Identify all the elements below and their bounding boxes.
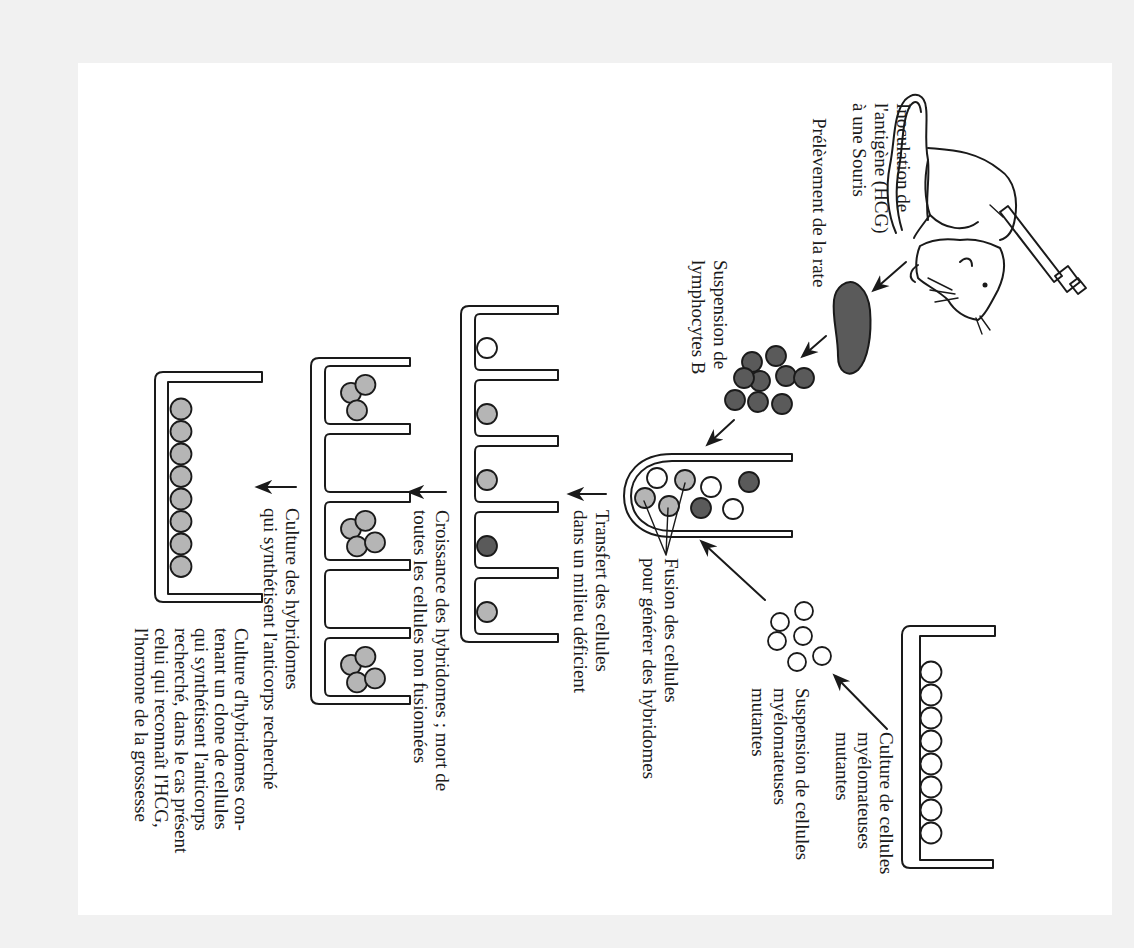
tube-cell-dark (691, 498, 711, 518)
myeloma-cell (813, 647, 831, 665)
svg-text:Transfert des cellules: Transfert des cellules (592, 510, 613, 672)
myeloma-culture-cell (921, 731, 942, 752)
svg-text:lymphocytes B: lymphocytes B (688, 260, 709, 375)
diagram-stage: Inoculation de l'antigène (HCG) à une So… (0, 0, 1134, 948)
plate2-hybridoma-cell (355, 647, 375, 667)
hybridoma-diagram: Inoculation de l'antigène (HCG) à une So… (0, 0, 1134, 948)
plate2-hybridoma-cell (355, 375, 375, 395)
tube-cell-white (723, 499, 743, 519)
lymphocyte-cell (748, 392, 768, 412)
svg-text:mutantes: mutantes (748, 688, 769, 757)
label-fusion: Fusion des cellules pour générer des hyb… (639, 558, 682, 779)
tube-cell-white (701, 477, 721, 497)
label-suspension-lymphocytes: Suspension de lymphocytes B (688, 260, 731, 375)
myeloma-culture-cells (921, 662, 942, 844)
svg-text:Culture d'hybridomes con-: Culture d'hybridomes con- (231, 628, 252, 831)
myeloma-cell (768, 632, 786, 650)
svg-text:Culture de cellules: Culture de cellules (876, 732, 897, 874)
final-hybridoma-cell (171, 534, 192, 555)
arrow-to-lymphocytes (803, 336, 826, 356)
svg-text:toutes les cellules non fusion: toutes les cellules non fusionnées (410, 510, 431, 763)
svg-text:myélomateuses: myélomateuses (770, 688, 791, 805)
plate1-cell-hybrid (477, 404, 497, 424)
svg-text:à une Souris: à une Souris (849, 103, 870, 197)
myeloma-culture-cell (921, 662, 942, 683)
label-croissance: Croissance des hybridomes ; mort de tout… (410, 510, 453, 791)
myeloma-culture-cell (921, 777, 942, 798)
label-culture-myelome: Culture de cellules myélomateuses mutant… (832, 732, 897, 874)
plate2-hybridoma-cell (355, 511, 375, 531)
svg-text:tenant un clone de cellules: tenant un clone de cellules (211, 628, 232, 830)
lymphocyte-cell (772, 394, 792, 414)
plate2-hybridoma-cell (365, 668, 385, 688)
svg-text:qui synthétisent l'anticorps r: qui synthétisent l'anticorps recherché (260, 508, 281, 789)
plate1-cell-hybrid (477, 602, 497, 622)
arrow-to-spleen (874, 262, 906, 290)
svg-text:celui qui reconnaît l'HCG,: celui qui reconnaît l'HCG, (151, 628, 172, 828)
svg-text:Fusion des cellules: Fusion des cellules (661, 558, 682, 703)
label-suspension-myelome: Suspension de cellules myélomateuses mut… (748, 688, 813, 860)
svg-text:Suspension de: Suspension de (710, 260, 731, 369)
svg-text:Croissance des hybridomes ; mo: Croissance des hybridomes ; mort de (432, 510, 453, 791)
myeloma-culture-cell (921, 754, 942, 775)
myeloma-culture-cell (921, 823, 942, 844)
myeloma-cell (794, 627, 812, 645)
lymphocyte-cluster (725, 346, 814, 414)
label-culture-clone: Culture d'hybridomes con- tenant un clon… (131, 628, 252, 854)
myeloma-cell (771, 613, 789, 631)
myeloma-cell (788, 653, 806, 671)
arrow-to-tube (708, 420, 734, 444)
myeloma-cell (795, 602, 813, 620)
final-hybridoma-cell (171, 399, 192, 420)
svg-text:recherché, dans le cas présent: recherché, dans le cas présent (171, 628, 192, 854)
final-hybridoma-cell (171, 466, 192, 487)
label-prelevement: Prélèvement de la rate (809, 118, 830, 287)
svg-text:Culture des hybridomes: Culture des hybridomes (282, 508, 303, 690)
final-hybridoma-cell (171, 444, 192, 465)
final-hybridoma-cell (171, 489, 192, 510)
svg-text:Prélèvement de la rate: Prélèvement de la rate (809, 118, 830, 287)
arrow-myeloma-to-tube (702, 542, 765, 600)
tube-cell-hybrid (675, 470, 695, 490)
plate2-hybridoma-cell (365, 532, 385, 552)
svg-text:l'antigène (HCG): l'antigène (HCG) (870, 103, 892, 234)
svg-text:mutantes: mutantes (832, 732, 853, 801)
plate1-cell-white (477, 338, 497, 358)
svg-text:dans un milieu déficient: dans un milieu déficient (570, 510, 591, 694)
tube-cell-dark (739, 472, 759, 492)
plate2-hybridoma-cell (347, 400, 367, 420)
tube-cell-white (647, 468, 667, 488)
lymphocyte-cell (776, 366, 796, 386)
label-transfert: Transfert des cellules dans un milieu dé… (570, 510, 613, 694)
svg-text:pour générer des hybridomes: pour générer des hybridomes (639, 558, 660, 779)
label-inoculation: Inoculation de l'antigène (HCG) à une So… (849, 103, 914, 234)
syringe-icon (990, 205, 1086, 294)
lymphocyte-cell (734, 368, 754, 388)
final-hybridoma-cell (171, 511, 192, 532)
myeloma-culture-cell (921, 800, 942, 821)
final-hybridoma-cell (171, 421, 192, 442)
tube-cell-hybrid (659, 496, 679, 516)
lymphocyte-cell (794, 368, 814, 388)
myeloma-suspension (768, 602, 831, 671)
arrow-culture-to-suspension (835, 676, 887, 729)
svg-text:l'hormone de la grossesse: l'hormone de la grossesse (131, 628, 152, 822)
plate1-cell-hybrid (477, 470, 497, 490)
final-hybridoma-cell (171, 556, 192, 577)
final-culture-cells (171, 399, 192, 578)
svg-text:Inoculation de: Inoculation de (893, 103, 914, 212)
plate-growth (311, 358, 410, 704)
plate2-hybridoma-cell (347, 672, 367, 692)
svg-text:qui synthétisent l'anticorps: qui synthétisent l'anticorps (191, 628, 212, 831)
plate-transfer (461, 306, 558, 642)
myeloma-culture-cell (921, 685, 942, 706)
svg-text:Suspension de cellules: Suspension de cellules (792, 688, 813, 860)
plate1-outline (461, 306, 558, 642)
label-culture-hybridomes: Culture des hybridomes qui synthétisent … (260, 508, 303, 789)
myeloma-culture-cell (921, 708, 942, 729)
lymphocyte-cell (766, 346, 786, 366)
lymphocyte-cell (725, 390, 745, 410)
svg-text:myélomateuses: myélomateuses (854, 732, 875, 849)
plate2-hybridoma-cell (347, 536, 367, 556)
tube-cells (635, 468, 759, 519)
